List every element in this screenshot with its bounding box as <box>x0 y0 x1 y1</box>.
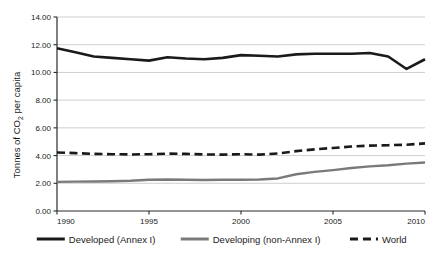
chart-container: 0.002.004.006.008.0010.0012.0014.00 1990… <box>0 0 432 253</box>
y-tick-label: 6.00 <box>35 124 51 133</box>
legend-label: Developing (non-Annex I) <box>213 234 321 245</box>
y-tick-label: 4.00 <box>35 152 51 161</box>
x-tick-label: 1990 <box>57 217 75 226</box>
y-axis-title-suffix: per capita <box>11 71 22 116</box>
y-tick-label: 14.00 <box>31 13 52 22</box>
x-tick-label: 1995 <box>140 217 158 226</box>
legend-label: Developed (Annex I) <box>69 234 156 245</box>
y-tick-label: 0.00 <box>35 207 51 216</box>
y-tick-label: 12.00 <box>31 41 52 50</box>
legend-label: World <box>382 234 407 245</box>
x-tick-label: 2010 <box>407 217 425 226</box>
y-tick-label: 10.00 <box>31 68 52 77</box>
chart-background <box>0 0 432 253</box>
x-tick-label: 2000 <box>232 217 250 226</box>
x-tick-label: 2005 <box>324 217 342 226</box>
co2-per-capita-line-chart: 0.002.004.006.008.0010.0012.0014.00 1990… <box>0 0 432 253</box>
y-tick-label: 2.00 <box>35 179 51 188</box>
y-tick-label: 8.00 <box>35 96 51 105</box>
y-axis-title-prefix: Tonnes of CO <box>11 120 22 178</box>
